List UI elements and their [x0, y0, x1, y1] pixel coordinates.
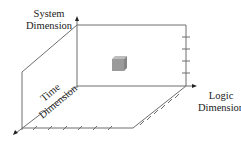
system-label-line1: System [26, 8, 72, 20]
cube-icon [112, 56, 127, 71]
logic-label-line2: Dimension [198, 102, 241, 114]
diagonal-edge-ticks [140, 94, 179, 125]
floor-right-edge [133, 86, 186, 128]
system-dimension-label: System Dimension [26, 8, 72, 32]
logic-label-line1: Logic [198, 90, 241, 102]
system-arrow-icon [75, 16, 79, 21]
logic-arrow-icon [192, 84, 197, 88]
system-label-line2: Dimension [26, 20, 72, 32]
logic-dimension-label: Logic Dimension [198, 90, 241, 114]
time-arrow-icon [13, 130, 18, 135]
